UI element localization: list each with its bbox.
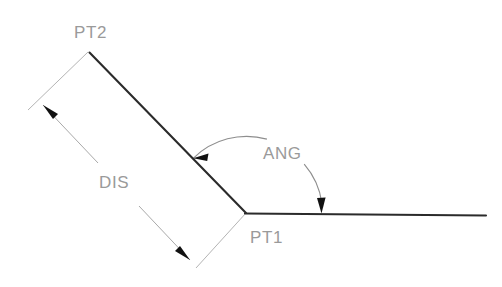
- extension-line-pt1: [196, 213, 246, 268]
- baseline-horizontal-line: [245, 214, 486, 216]
- diagram-canvas: DIS ANG PT2 PT1: [0, 0, 502, 287]
- dis-dimension: DIS: [43, 105, 190, 260]
- dis-arrowhead-upper: [43, 105, 58, 119]
- ang-arc-right-segment: [304, 164, 322, 203]
- technical-drawing-svg: DIS ANG PT2 PT1: [0, 0, 502, 287]
- dis-label: DIS: [99, 173, 129, 192]
- ang-arrowhead-baseline: [317, 197, 326, 213]
- ang-dimension: ANG: [193, 136, 325, 213]
- ang-label: ANG: [263, 144, 302, 163]
- pt1-label: PT1: [250, 228, 283, 247]
- main-geometry: [90, 53, 487, 216]
- dimension-extension-lines: [28, 52, 246, 268]
- pt2-label: PT2: [74, 23, 107, 42]
- extension-line-pt2: [28, 52, 88, 110]
- dis-arrowhead-lower: [175, 246, 190, 260]
